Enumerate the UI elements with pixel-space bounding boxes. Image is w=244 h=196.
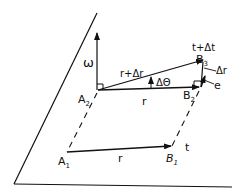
time-t-plus-dt-label: t+Δt (192, 43, 215, 53)
plane-bottom-edge (14, 184, 232, 187)
point-b1-sub: 1 (174, 159, 178, 167)
point-a1-label: A1 (58, 156, 70, 170)
point-b1-letter: B (166, 152, 174, 165)
right-angle-mark-b2 (194, 81, 200, 87)
time-t-label: t (185, 142, 189, 153)
point-a2-letter: A (78, 93, 86, 106)
delta-theta-label: ΔΘ (156, 78, 171, 88)
point-b3-sub: 3 (204, 60, 208, 68)
point-a1-letter: A (58, 155, 66, 168)
r-top-label: r (142, 96, 147, 107)
leader-dr (204, 68, 216, 71)
point-b1-label: B1 (166, 153, 178, 167)
point-a2-label: A2 (78, 94, 90, 108)
unit-vector-e-label: e (214, 80, 221, 91)
r-plus-dr-label: r+Δr (120, 69, 143, 79)
point-a1-sub: 1 (66, 162, 70, 170)
point-b2-sub: 2 (191, 96, 195, 104)
point-b3-letter: B (196, 53, 204, 66)
point-b2-letter: B (183, 89, 191, 102)
point-a2-sub: 2 (86, 100, 90, 108)
leader-e (204, 80, 214, 84)
point-b2-label: B2 (183, 90, 195, 104)
delta-r-label: Δr (216, 66, 227, 76)
omega-label: ω (83, 56, 94, 69)
diagram-canvas (0, 0, 244, 196)
point-b3-label: B3 (196, 54, 208, 68)
r-bottom-label: r (118, 153, 123, 164)
